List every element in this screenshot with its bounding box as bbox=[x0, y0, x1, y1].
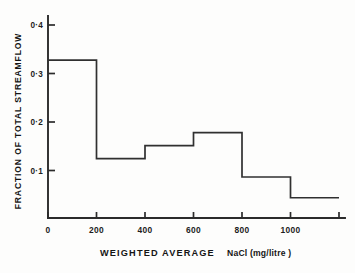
step-histogram-plot: 0·4 0·3 0·2 0·1 0 200 400 600 800 1000 F… bbox=[0, 0, 355, 273]
y-axis-ticks bbox=[48, 25, 55, 171]
x-axis-title-unit: NaCl (mg/litre ) bbox=[227, 248, 291, 258]
y-tick-label-0.3: 0·3 bbox=[31, 70, 44, 79]
x-tick-label-600: 600 bbox=[186, 225, 201, 235]
step-histogram-line bbox=[48, 60, 339, 198]
y-axis-title: FRACTION OF TOTAL STREAMFLOW bbox=[13, 33, 23, 210]
x-tick-label-0: 0 bbox=[46, 225, 51, 235]
x-tick-label-1000: 1000 bbox=[281, 225, 301, 235]
y-tick-label-0.1: 0·1 bbox=[31, 167, 44, 176]
y-tick-label-0.2: 0·2 bbox=[31, 118, 44, 127]
x-axis-title-main: WEIGHTED AVERAGE bbox=[100, 248, 215, 258]
x-tick-label-200: 200 bbox=[89, 225, 104, 235]
x-tick-label-800: 800 bbox=[235, 225, 250, 235]
x-tick-label-400: 400 bbox=[138, 225, 153, 235]
chart-figure: 0·4 0·3 0·2 0·1 0 200 400 600 800 1000 F… bbox=[0, 0, 355, 273]
y-tick-label-0.4: 0·4 bbox=[31, 21, 44, 30]
